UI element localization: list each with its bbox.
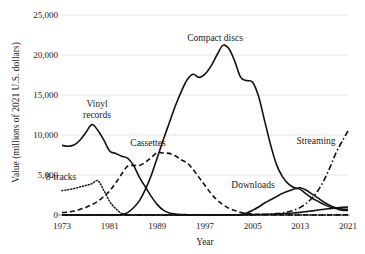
series-label-line1: Vinyl [70, 99, 124, 110]
x-tick-label: 1989 [135, 221, 179, 231]
series-label-line1: 8-tracks [36, 172, 86, 183]
series-label-vinyl-records: Vinyl records [70, 99, 124, 120]
series-label-streaming: Streaming [286, 136, 346, 147]
series-label-line1: Cassettes [119, 138, 177, 149]
x-tick-label: 2021 [326, 221, 365, 231]
series-label-line1: Downloads [222, 180, 284, 191]
series-label-cassettes: Cassettes [119, 138, 177, 149]
series-label-line1: Streaming [286, 136, 346, 147]
series-label-8-tracks: 8-tracks [36, 172, 86, 183]
series-label-line2: records [70, 110, 124, 121]
x-tick-label: 1981 [88, 221, 132, 231]
series-label-downloads: Downloads [222, 180, 284, 191]
x-tick-label: 1973 [40, 221, 84, 231]
line-chart: Value (millions of 2021 U.S. dollars) 25… [0, 0, 365, 254]
x-tick-label: 2005 [231, 221, 275, 231]
x-tick-label: 1997 [183, 221, 227, 231]
x-tick-label: 2013 [278, 221, 322, 231]
series-label-compact-discs: Compact discs [173, 33, 257, 44]
series-line-cassettes [62, 152, 348, 215]
series-lines [62, 45, 348, 215]
x-axis-title: Year [62, 237, 348, 247]
series-label-line1: Compact discs [173, 33, 257, 44]
